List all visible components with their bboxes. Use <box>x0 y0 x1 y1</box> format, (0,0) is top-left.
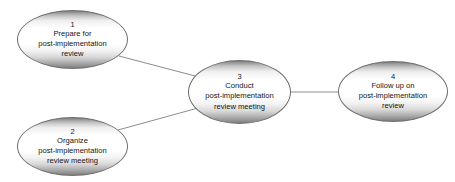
node-text-label: Organize post-implementation review meet… <box>32 136 112 166</box>
activity-network-diagram: 1 Prepare for post-implementation review… <box>0 0 455 182</box>
node-text-label: Conduct post-implementation review meeti… <box>199 81 279 111</box>
node-id-label: 2 <box>70 127 74 136</box>
node-conduct-review-meeting[interactable]: 3 Conduct post-implementation review mee… <box>188 60 291 124</box>
node-text-label: Prepare for post-implementation review <box>32 29 112 59</box>
node-id-label: 1 <box>70 20 74 29</box>
node-prepare-for-review[interactable]: 1 Prepare for post-implementation review <box>17 10 128 69</box>
node-follow-up-on-review[interactable]: 4 Follow up on post-implementation revie… <box>338 61 448 122</box>
edge-node2-to-node3[interactable] <box>118 108 198 130</box>
node-text-label: Follow up on post-implementation review <box>353 81 433 111</box>
edge-node1-to-node3[interactable] <box>119 56 199 77</box>
node-id-label: 4 <box>391 72 395 81</box>
node-id-label: 3 <box>237 72 241 81</box>
node-organize-review-meeting[interactable]: 2 Organize post-implementation review me… <box>17 117 128 176</box>
